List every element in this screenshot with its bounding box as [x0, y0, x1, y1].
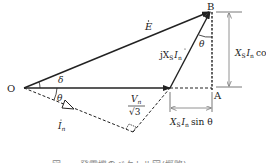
- jxsin-label: jXSIn: [159, 48, 186, 61]
- theta-b-arc: [199, 35, 212, 37]
- svg-text:XSInsin θ: XSInsin θ: [169, 117, 213, 128]
- phasor-diagram: O B A E δ θ θ jXSIn Vn √3 In XSIncos θ X…: [0, 0, 266, 163]
- svg-text:√3: √3: [129, 107, 141, 117]
- theta-o-label: θ: [57, 93, 63, 103]
- v-label: Vn √3: [128, 94, 145, 117]
- theta-b-label: θ: [199, 39, 205, 49]
- delta-arc: [39, 82, 40, 88]
- svg-text:jXSIn: jXSIn: [159, 50, 182, 61]
- point-b-label: B: [207, 1, 214, 12]
- svg-text:E: E: [144, 21, 153, 32]
- svg-text:Vn: Vn: [131, 94, 142, 105]
- current-label: In: [57, 119, 66, 132]
- point-a-label: A: [213, 90, 222, 101]
- delta-label: δ: [58, 75, 63, 85]
- current-vector: [24, 88, 133, 132]
- figure-caption: 図 ─ ─ 発電機のベクトル図(概略): [52, 159, 186, 163]
- current-arrowhead-icon: [62, 100, 74, 109]
- svg-text:XSIncos θ: XSIncos θ: [234, 48, 266, 59]
- point-o-label: O: [7, 83, 15, 94]
- vertical-dimension-label: XSIncos θ: [234, 48, 266, 59]
- e-vector: [24, 12, 209, 88]
- e-label: E: [144, 20, 153, 32]
- svg-text:In: In: [57, 121, 66, 132]
- horizontal-dimension-label: XSInsin θ: [169, 117, 213, 128]
